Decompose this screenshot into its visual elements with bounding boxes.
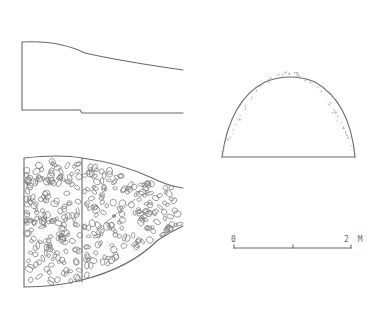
scale-end-label: 2 M <box>344 236 364 244</box>
arch-outline <box>222 77 355 157</box>
scale-start-label: 0 <box>231 236 236 244</box>
stone-fill <box>23 157 184 286</box>
section-outline <box>22 42 183 110</box>
drawing-canvas <box>0 0 367 310</box>
plan-view <box>23 156 184 287</box>
longitudinal-section <box>22 42 183 113</box>
plan-outline <box>24 156 183 287</box>
section-floor <box>22 110 183 113</box>
arch-earth-specks <box>221 71 356 154</box>
cross-section-arch <box>221 71 356 157</box>
scale-bar <box>234 245 351 248</box>
